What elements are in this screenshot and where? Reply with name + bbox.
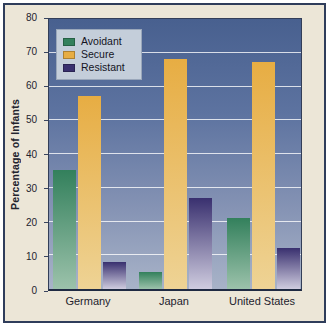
x-label-united-states: United States (217, 295, 307, 307)
x-label-japan: Japan (129, 295, 219, 307)
bar-avoidant-japan (139, 272, 162, 289)
y-tick-label-30: 30 (7, 183, 37, 194)
attachment-bar-chart-figure: Percentage of Infants 01020304050607080 … (0, 0, 330, 329)
y-tick-label-40: 40 (7, 149, 37, 160)
bar-avoidant-united-states (227, 218, 250, 289)
secure-swatch-icon (63, 51, 75, 59)
legend-item-resistant: Resistant (63, 62, 136, 73)
y-tick-label-80: 80 (7, 12, 37, 23)
y-axis: 01020304050607080 (0, 18, 48, 291)
y-tick-label-70: 70 (7, 46, 37, 57)
y-tick-label-0: 0 (7, 285, 37, 296)
bar-group-germany (53, 96, 126, 289)
bar-secure-japan (164, 59, 187, 289)
legend-label: Secure (81, 49, 114, 60)
plot-area: Avoidant Secure Resistant (48, 18, 302, 291)
y-tick-label-60: 60 (7, 80, 37, 91)
legend: Avoidant Secure Resistant (56, 29, 142, 80)
bar-resistant-germany (103, 262, 126, 289)
x-label-germany: Germany (43, 295, 133, 307)
bar-avoidant-germany (53, 170, 76, 289)
y-tick-label-50: 50 (7, 114, 37, 125)
legend-label: Avoidant (81, 36, 122, 47)
y-tick-label-10: 10 (7, 251, 37, 262)
bar-group-united-states (227, 62, 300, 289)
legend-item-avoidant: Avoidant (63, 36, 136, 47)
y-tick-label-20: 20 (7, 217, 37, 228)
bar-group-japan (139, 59, 212, 289)
legend-label: Resistant (81, 62, 125, 73)
bar-resistant-japan (189, 198, 212, 289)
bar-secure-germany (78, 96, 101, 289)
bar-resistant-united-states (277, 248, 300, 289)
avoidant-swatch-icon (63, 38, 75, 46)
bar-secure-united-states (252, 62, 275, 289)
resistant-swatch-icon (63, 64, 75, 72)
legend-item-secure: Secure (63, 49, 136, 60)
